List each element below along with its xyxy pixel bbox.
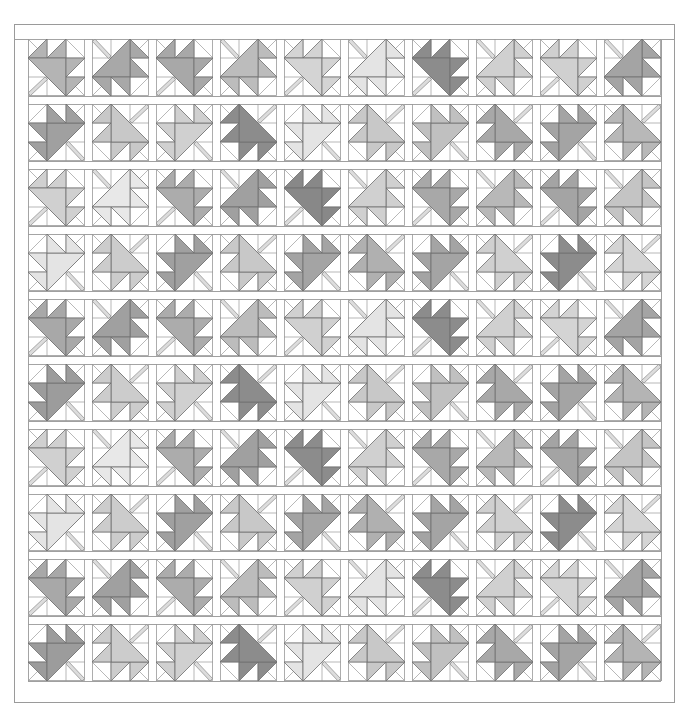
maple-leaf-block — [220, 494, 277, 551]
maple-leaf-block — [348, 169, 405, 226]
maple-leaf-block — [412, 104, 469, 161]
maple-leaf-block — [412, 169, 469, 226]
maple-leaf-block — [284, 429, 341, 486]
maple-leaf-block — [476, 429, 533, 486]
maple-leaf-block — [476, 104, 533, 161]
maple-leaf-block — [540, 429, 597, 486]
maple-leaf-block — [476, 624, 533, 681]
maple-leaf-block — [348, 559, 405, 616]
maple-leaf-block — [92, 104, 149, 161]
maple-leaf-block — [156, 104, 213, 161]
maple-leaf-block — [156, 494, 213, 551]
maple-leaf-block — [348, 494, 405, 551]
maple-leaf-block — [28, 299, 85, 356]
maple-leaf-block — [156, 299, 213, 356]
maple-leaf-block — [412, 364, 469, 421]
maple-leaf-block — [540, 299, 597, 356]
maple-leaf-block — [604, 234, 661, 291]
maple-leaf-block — [156, 39, 213, 96]
maple-leaf-block — [28, 494, 85, 551]
maple-leaf-block — [28, 39, 85, 96]
maple-leaf-block — [284, 234, 341, 291]
maple-leaf-block — [604, 559, 661, 616]
maple-leaf-block — [284, 559, 341, 616]
maple-leaf-block — [28, 429, 85, 486]
maple-leaf-block — [28, 559, 85, 616]
maple-leaf-block — [540, 559, 597, 616]
maple-leaf-block — [284, 299, 341, 356]
quilt-diagram — [0, 0, 697, 723]
maple-leaf-block — [540, 364, 597, 421]
maple-leaf-block — [476, 39, 533, 96]
maple-leaf-block — [604, 39, 661, 96]
maple-leaf-block — [220, 39, 277, 96]
maple-leaf-block — [92, 299, 149, 356]
maple-leaf-block — [412, 624, 469, 681]
maple-leaf-block — [604, 364, 661, 421]
maple-leaf-block — [604, 104, 661, 161]
maple-leaf-block — [220, 559, 277, 616]
maple-leaf-block — [412, 559, 469, 616]
maple-leaf-block — [92, 39, 149, 96]
maple-leaf-block — [284, 624, 341, 681]
maple-leaf-block — [220, 104, 277, 161]
maple-leaf-block — [348, 104, 405, 161]
maple-leaf-block — [476, 169, 533, 226]
maple-leaf-block — [476, 364, 533, 421]
maple-leaf-block — [348, 39, 405, 96]
maple-leaf-block — [540, 494, 597, 551]
maple-leaf-block — [92, 559, 149, 616]
maple-leaf-block — [476, 299, 533, 356]
maple-leaf-block — [348, 234, 405, 291]
maple-leaf-block — [220, 429, 277, 486]
maple-leaf-block — [92, 429, 149, 486]
maple-leaf-block — [28, 169, 85, 226]
maple-leaf-block — [540, 169, 597, 226]
maple-leaf-block — [476, 494, 533, 551]
maple-leaf-block — [220, 169, 277, 226]
maple-leaf-block — [92, 494, 149, 551]
maple-leaf-block — [412, 429, 469, 486]
maple-leaf-block — [28, 104, 85, 161]
maple-leaf-block — [28, 234, 85, 291]
maple-leaf-block — [156, 624, 213, 681]
maple-leaf-block — [348, 624, 405, 681]
maple-leaf-block — [540, 234, 597, 291]
maple-leaf-block — [92, 364, 149, 421]
maple-leaf-block — [156, 559, 213, 616]
maple-leaf-block — [348, 299, 405, 356]
maple-leaf-block — [412, 299, 469, 356]
maple-leaf-block — [156, 364, 213, 421]
maple-leaf-block — [476, 234, 533, 291]
maple-leaf-block — [604, 624, 661, 681]
maple-leaf-block — [284, 169, 341, 226]
maple-leaf-block — [540, 39, 597, 96]
maple-leaf-block — [156, 234, 213, 291]
maple-leaf-block — [284, 104, 341, 161]
maple-leaf-block — [412, 494, 469, 551]
maple-leaf-block — [156, 169, 213, 226]
maple-leaf-block — [284, 494, 341, 551]
maple-leaf-block — [604, 429, 661, 486]
maple-leaf-block — [476, 559, 533, 616]
maple-leaf-block — [604, 494, 661, 551]
maple-leaf-block — [348, 429, 405, 486]
maple-leaf-block — [284, 39, 341, 96]
maple-leaf-block — [604, 299, 661, 356]
maple-leaf-block — [156, 429, 213, 486]
maple-leaf-block — [220, 624, 277, 681]
maple-leaf-block — [540, 104, 597, 161]
maple-leaf-block — [220, 234, 277, 291]
maple-leaf-block — [284, 364, 341, 421]
maple-leaf-block — [92, 624, 149, 681]
maple-leaf-block — [348, 364, 405, 421]
maple-leaf-block — [412, 234, 469, 291]
maple-leaf-block — [28, 364, 85, 421]
maple-leaf-block — [92, 169, 149, 226]
maple-leaf-block — [220, 364, 277, 421]
maple-leaf-block — [604, 169, 661, 226]
maple-leaf-block — [28, 624, 85, 681]
maple-leaf-block — [92, 234, 149, 291]
maple-leaf-block — [220, 299, 277, 356]
maple-leaf-block — [412, 39, 469, 96]
